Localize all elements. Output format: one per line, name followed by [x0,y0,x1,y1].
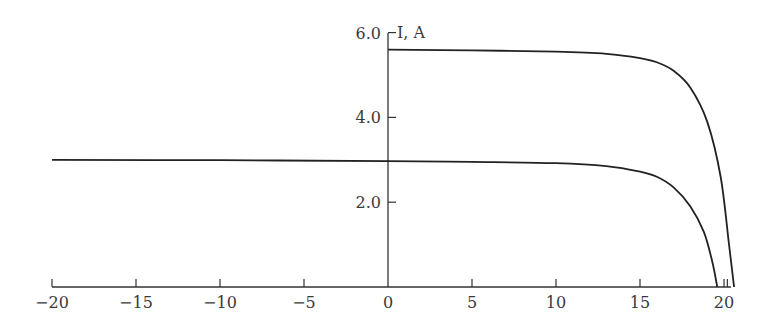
series-group [52,50,734,287]
x-tick-label: 0 [383,293,393,312]
x-tick-label: −15 [119,293,153,312]
upper-iv-curve [388,50,734,287]
x-tick-label: 5 [467,293,477,312]
y-axis: 2.04.06.0 I, A [356,23,426,287]
y-axis-label: I, A [397,23,425,42]
x-tick-label: 15 [630,293,650,312]
x-tick-label: −20 [35,293,69,312]
x-tick-label: 20 [714,293,734,312]
x-tick-label: −5 [292,293,316,312]
iv-chart: −20−15−10−505101520 2.04.06.0 I, A [0,0,768,331]
x-tick-label: −10 [203,293,237,312]
x-axis: −20−15−10−505101520 [35,279,734,312]
lower-iv-curve [52,160,717,287]
x-tick-label: 10 [546,293,566,312]
y-tick-label: 2.0 [356,193,381,212]
y-tick-label: 4.0 [356,108,381,127]
y-tick-label: 6.0 [356,24,381,43]
